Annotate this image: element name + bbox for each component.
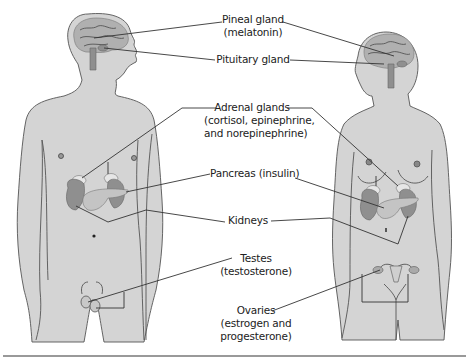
male-navel [92, 234, 95, 237]
ovaries-hormone-1: (estrogen and [218, 317, 294, 330]
pineal-gland-label: Pineal gland (melatonin) [222, 13, 284, 39]
kidneys-label: Kidneys [226, 214, 270, 227]
testes-name: Testes [218, 252, 294, 265]
female-figure [333, 32, 452, 340]
adrenal-glands-hormone-2: and norepinephrine) [204, 127, 300, 140]
female-cerebellum [397, 61, 407, 67]
adrenal-glands-label: Adrenal glands (cortisol, epinephrine, a… [204, 101, 300, 140]
ovaries-label: Ovaries (estrogen and progesterone) [218, 304, 294, 343]
pituitary-gland-name: Pituitary gland [216, 53, 290, 66]
male-nipple-right [132, 156, 137, 161]
male-brainstem [90, 48, 96, 70]
ovaries-hormone-2: progesterone) [218, 330, 294, 343]
pituitary-gland-label: Pituitary gland [216, 53, 290, 66]
male-testis-right [90, 300, 100, 312]
female-nipple-right [414, 161, 420, 167]
male-figure [17, 14, 163, 342]
kidneys-leader-female [271, 218, 330, 221]
testes-label: Testes (testosterone) [218, 252, 294, 278]
pineal-gland-hormone: (melatonin) [222, 26, 284, 39]
female-ovary-right [409, 267, 419, 274]
ovaries-name: Ovaries [218, 304, 294, 317]
testes-hormone: (testosterone) [218, 265, 294, 278]
pineal-gland-name: Pineal gland [222, 13, 284, 26]
kidneys-name: Kidneys [226, 214, 270, 227]
pancreas-name: Pancreas (insulin) [210, 167, 296, 180]
adrenal-glands-name: Adrenal glands [204, 101, 300, 114]
male-nipple-left [59, 154, 64, 159]
female-brainstem [388, 64, 394, 88]
adrenal-glands-hormone-1: (cortisol, epinephrine, [204, 114, 300, 127]
pancreas-label: Pancreas (insulin) [210, 167, 296, 180]
